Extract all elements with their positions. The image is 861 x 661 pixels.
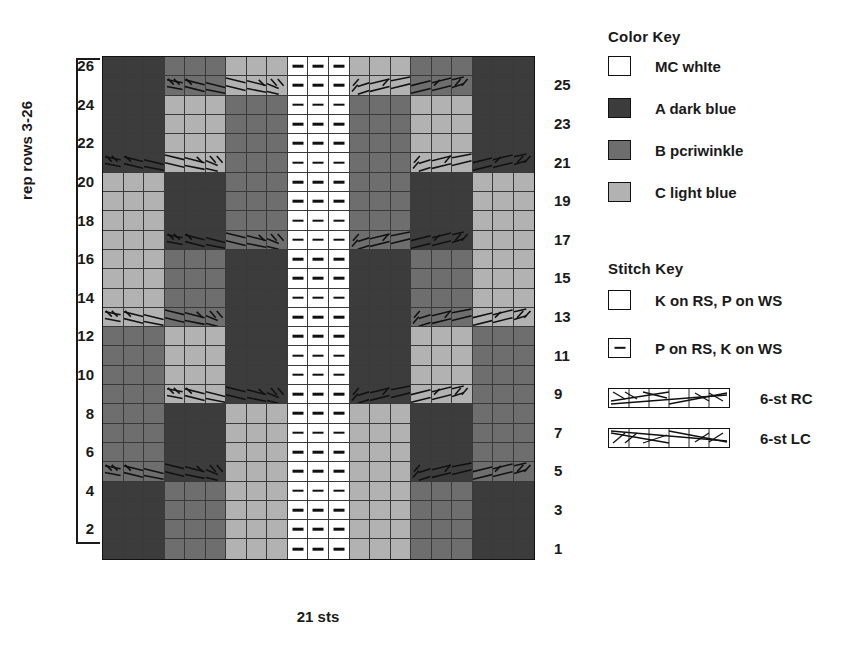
chart-cell — [267, 385, 288, 404]
chart-cell — [329, 520, 350, 539]
chart-cell — [514, 308, 535, 327]
chart-cell — [411, 366, 432, 385]
chart-cell — [247, 443, 268, 462]
chart-cell — [144, 404, 165, 423]
stitch-key-label: P on RS, K on WS — [655, 340, 782, 357]
chart-row — [103, 482, 534, 501]
row-number-6: 6 — [86, 442, 94, 461]
chart-cell — [226, 192, 247, 211]
purl-symbol — [292, 239, 303, 242]
chart-cell — [473, 96, 494, 115]
chart-cell — [473, 346, 494, 365]
chart-cell — [452, 250, 473, 269]
chart-cell — [206, 289, 227, 308]
chart-cell — [411, 346, 432, 365]
chart-cell — [206, 501, 227, 520]
chart-cell — [288, 404, 309, 423]
chart-row — [103, 96, 534, 115]
purl-symbol — [313, 142, 324, 145]
purl-symbol — [313, 258, 324, 261]
chart-cell — [288, 308, 309, 327]
stitch-key-item-purl: P on RS, K on WS — [608, 336, 782, 360]
chart-row — [103, 462, 534, 481]
chart-cell — [165, 385, 186, 404]
chart-cell — [185, 404, 206, 423]
chart-cell — [452, 269, 473, 288]
row-number-5: 5 — [554, 461, 562, 480]
chart-cell — [493, 346, 514, 365]
chart-cell — [247, 308, 268, 327]
chart-cell — [514, 153, 535, 172]
chart-cell — [103, 211, 124, 230]
chart-cell — [247, 115, 268, 134]
chart-cell — [473, 539, 494, 558]
chart-cell — [370, 57, 391, 76]
purl-symbol — [292, 142, 303, 145]
chart-cell — [206, 482, 227, 501]
cable-lc-symbol — [608, 428, 730, 448]
chart-cell — [432, 192, 453, 211]
chart-cell — [329, 96, 350, 115]
chart-cell — [247, 153, 268, 172]
chart-cell — [124, 96, 145, 115]
chart-cell — [103, 153, 124, 172]
chart-cell — [124, 501, 145, 520]
chart-cell — [206, 115, 227, 134]
row-number-26: 26 — [77, 56, 94, 75]
chart-cell — [411, 327, 432, 346]
purl-symbol — [292, 335, 303, 338]
chart-cell — [411, 462, 432, 481]
purl-symbol — [313, 65, 324, 68]
chart-cell — [329, 173, 350, 192]
chart-cell — [391, 192, 412, 211]
chart-cell — [350, 404, 371, 423]
chart-cell — [350, 289, 371, 308]
row-number-11: 11 — [554, 346, 570, 365]
chart-cell — [308, 539, 329, 558]
chart-cell — [206, 539, 227, 558]
chart-row — [103, 57, 534, 76]
chart-cell — [206, 153, 227, 172]
chart-cell — [391, 76, 412, 95]
chart-cell — [185, 211, 206, 230]
chart-cell — [329, 327, 350, 346]
chart-cell — [288, 443, 309, 462]
chart-cell — [370, 231, 391, 250]
chart-cell — [452, 76, 473, 95]
chart-cell — [370, 404, 391, 423]
row-number-14: 14 — [77, 288, 94, 307]
chart-cell — [308, 404, 329, 423]
chart-cell — [452, 346, 473, 365]
purl-symbol — [292, 374, 303, 377]
chart-cell — [103, 250, 124, 269]
color-key-item-a: A dark blue — [608, 96, 736, 120]
chart-cell — [514, 192, 535, 211]
chart-cell — [350, 115, 371, 134]
chart-cell — [493, 289, 514, 308]
color-key-label: A dark blue — [655, 100, 736, 117]
chart-cell — [267, 269, 288, 288]
chart-cell — [124, 76, 145, 95]
chart-row — [103, 539, 534, 558]
chart-cell — [206, 366, 227, 385]
chart-cell — [370, 134, 391, 153]
chart-row — [103, 173, 534, 192]
chart-cell — [432, 308, 453, 327]
chart-cell — [206, 269, 227, 288]
chart-cell — [165, 443, 186, 462]
chart-cell — [185, 366, 206, 385]
row-numbers-left: 2624222018161412108642 — [62, 56, 98, 568]
chart-cell — [185, 250, 206, 269]
chart-cell — [124, 462, 145, 481]
chart-cell — [267, 115, 288, 134]
chart-cell — [432, 462, 453, 481]
chart-cell — [308, 501, 329, 520]
purl-symbol — [333, 123, 344, 126]
chart-cell — [267, 346, 288, 365]
chart-cell — [308, 308, 329, 327]
purl-symbol — [333, 258, 344, 261]
chart-cell — [308, 76, 329, 95]
chart-cell — [124, 366, 145, 385]
chart-cell — [391, 539, 412, 558]
chart-cell — [452, 501, 473, 520]
